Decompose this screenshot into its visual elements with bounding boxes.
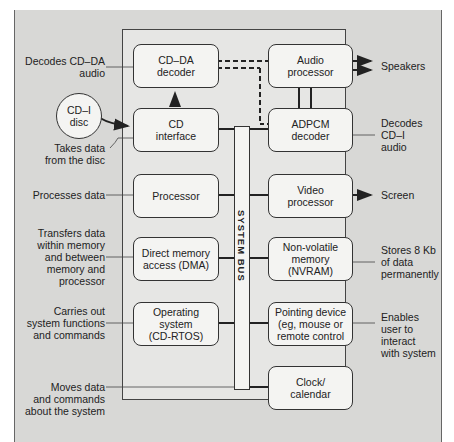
cd-interface-description: Takes data from the disc [45, 142, 105, 166]
dma-box: Direct memory access (DMA) [133, 237, 219, 281]
pointing-device-box: Pointing device (eg, mouse or remote con… [268, 302, 353, 346]
cd-da-decoder-label: CD–DA decoder [157, 54, 195, 78]
cd-da-decoder-box: CD–DA decoder [133, 44, 219, 88]
adpcm-decoder-box: ADPCM decoder [268, 108, 353, 152]
adpcm-decoder-description: Decodes CD–I audio [381, 117, 422, 153]
operating-system-box: Operating system (CD-RTOS) [133, 302, 219, 346]
disc-label: CD–I disc [67, 104, 91, 128]
cd-da-decoder-description: Decodes CD–DA audio [25, 55, 105, 79]
system-bus-description: Moves data and commands about the system [25, 381, 105, 417]
cd-i-disc: CD–I disc [56, 93, 102, 139]
audio-processor-box: Audio processor [268, 44, 353, 88]
processor-box: Processor [133, 174, 219, 218]
speakers-label: Speakers [381, 60, 425, 72]
processor-label: Processor [152, 190, 199, 202]
pointing-device-label: Pointing device (eg, mouse or remote con… [275, 306, 346, 342]
nvram-label: Non-volatile memory (NVRAM) [283, 241, 338, 277]
clock-calendar-box: Clock/ calendar [268, 366, 353, 410]
video-processor-box: Video processor [268, 174, 353, 218]
adpcm-decoder-label: ADPCM decoder [292, 118, 330, 142]
cd-interface-box: CD interface [133, 108, 219, 152]
video-processor-label: Video processor [287, 184, 333, 208]
dma-description: Transfers data within memory and between… [37, 227, 105, 287]
audio-processor-label: Audio processor [287, 54, 333, 78]
screen-label: Screen [381, 189, 414, 201]
nvram-box: Non-volatile memory (NVRAM) [268, 237, 353, 281]
processor-description: Processes data [33, 189, 105, 201]
system-bus-label: SYSTEM BUS [236, 210, 247, 282]
clock-calendar-label: Clock/ calendar [290, 376, 330, 400]
pointing-device-description: Enables user to interact with system [381, 311, 436, 359]
operating-system-description: Carries out system functions and command… [27, 305, 105, 341]
dma-label: Direct memory access (DMA) [142, 247, 210, 271]
operating-system-label: Operating system (CD-RTOS) [149, 306, 203, 342]
nvram-description: Stores 8 Kb of data permanently [381, 244, 439, 280]
cd-interface-label: CD interface [156, 118, 196, 142]
